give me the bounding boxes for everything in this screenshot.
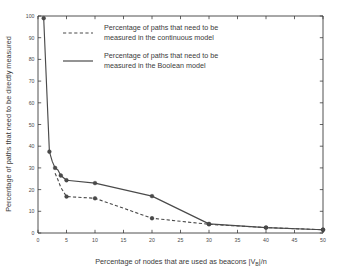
y-tick-label: 0 [32, 230, 35, 236]
legend-label-boolean-line2: measured in the Boolean model [104, 61, 206, 70]
chart-legend: Percentage of paths that need to be meas… [63, 23, 218, 70]
y-axis-tick-labels: 0102030405060708090100 [26, 13, 35, 236]
y-tick-label: 50 [29, 122, 35, 128]
x-tick-label: 15 [121, 237, 127, 243]
data-point-marker [65, 195, 69, 199]
x-tick-label: 0 [37, 237, 40, 243]
x-tick-label: 20 [149, 237, 155, 243]
line-chart: 05101520253035404550 0102030405060708090… [0, 0, 338, 277]
data-point-marker [264, 226, 268, 230]
data-point-marker [150, 194, 154, 198]
legend-label-continuous-line1: Percentage of paths that need to be [104, 23, 218, 32]
data-point-marker [59, 174, 63, 178]
y-tick-label: 20 [29, 187, 35, 193]
x-tick-label: 35 [235, 237, 241, 243]
legend-label-continuous-line2: measured in the continuous model [104, 33, 214, 42]
series-layer [44, 18, 323, 230]
x-tick-label: 30 [206, 237, 212, 243]
chart-figure: 05101520253035404550 0102030405060708090… [0, 0, 338, 277]
y-tick-label: 40 [29, 143, 35, 149]
y-tick-label: 60 [29, 100, 35, 106]
x-tick-label: 50 [320, 237, 326, 243]
x-tick-label: 45 [292, 237, 298, 243]
data-point-marker [93, 181, 97, 185]
y-axis-ticks [38, 16, 323, 233]
y-tick-label: 80 [29, 56, 35, 62]
data-point-marker [53, 166, 57, 170]
data-point-marker [321, 228, 325, 232]
data-point-marker [65, 178, 69, 182]
y-tick-label: 90 [29, 35, 35, 41]
axes-frame [38, 16, 323, 233]
y-tick-label: 100 [26, 13, 35, 19]
data-point-marker [48, 150, 52, 154]
y-tick-label: 70 [29, 78, 35, 84]
x-axis-ticks [38, 16, 323, 233]
x-tick-label: 5 [65, 237, 68, 243]
x-tick-label: 40 [263, 237, 269, 243]
x-axis-tick-labels: 05101520253035404550 [37, 237, 326, 243]
y-tick-label: 10 [29, 208, 35, 214]
y-axis-title: Percentage of paths that need to be dire… [4, 36, 13, 212]
data-point-marker [42, 16, 46, 20]
data-point-marker [207, 222, 211, 226]
x-tick-label: 10 [92, 237, 98, 243]
legend-label-boolean-line1: Percentage of paths that need to be [104, 51, 218, 60]
data-point-markers [42, 16, 325, 231]
x-tick-label: 25 [178, 237, 184, 243]
y-tick-label: 30 [29, 165, 35, 171]
data-point-marker [150, 216, 154, 220]
x-axis-title: Percentage of nodes that are used as bea… [95, 257, 267, 267]
data-point-marker [93, 196, 97, 200]
